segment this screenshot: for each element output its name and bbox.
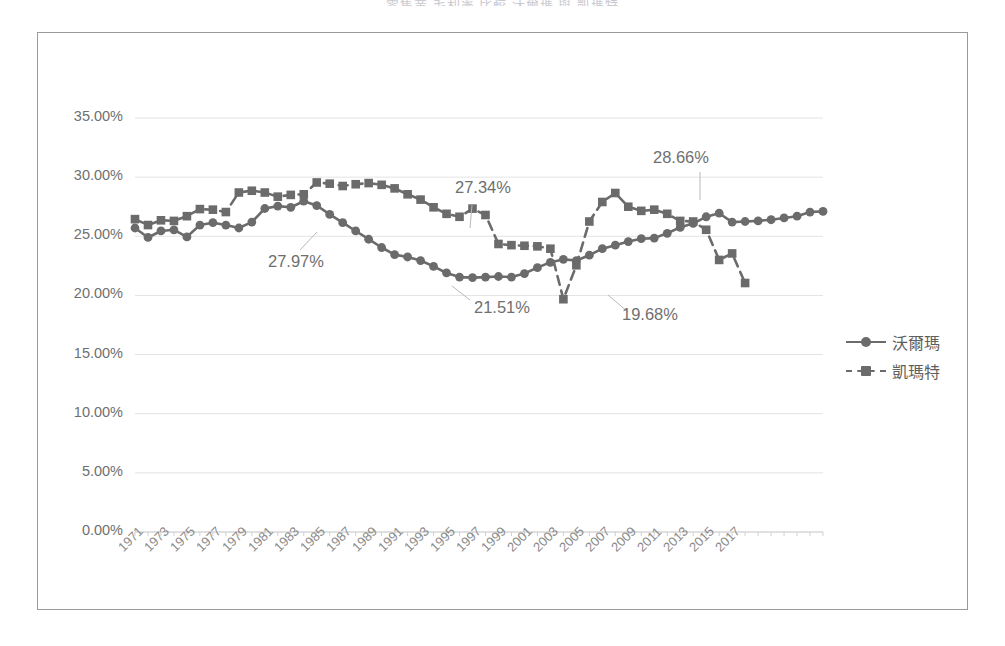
series-marker-2 xyxy=(663,210,672,219)
series-marker-2 xyxy=(429,203,438,212)
series-marker-2 xyxy=(273,192,282,201)
series-marker-1 xyxy=(286,203,295,212)
series-marker-2 xyxy=(741,279,750,288)
legend-item[interactable]: 沃爾瑪 xyxy=(846,327,966,356)
series-marker-2 xyxy=(494,240,503,249)
series-marker-1 xyxy=(507,273,516,282)
series-marker-1 xyxy=(208,218,217,227)
series-marker-2 xyxy=(546,244,555,253)
series-marker-2 xyxy=(248,186,257,195)
chart-legend: 沃爾瑪凱瑪特 xyxy=(846,327,966,385)
annotation-leader xyxy=(300,232,317,250)
data-label: 21.51% xyxy=(474,298,530,317)
series-marker-2 xyxy=(312,178,321,187)
series-marker-2 xyxy=(481,211,490,220)
legend-item-label: 凱瑪特 xyxy=(892,359,940,383)
series-marker-1 xyxy=(312,201,321,210)
series-marker-1 xyxy=(416,256,425,265)
series-marker-1 xyxy=(196,221,205,230)
data-label: 27.97% xyxy=(268,252,324,271)
series-marker-1 xyxy=(468,273,477,282)
series-marker-1 xyxy=(157,227,166,236)
series-marker-1 xyxy=(429,262,438,271)
series-marker-1 xyxy=(338,218,347,227)
y-axis-tick-label: 15.00% xyxy=(55,345,123,361)
y-axis-tick-label: 5.00% xyxy=(55,463,123,479)
series-marker-1 xyxy=(585,251,594,260)
legend-item-label: 沃爾瑪 xyxy=(892,330,940,354)
series-marker-2 xyxy=(261,188,270,197)
series-marker-1 xyxy=(611,241,620,250)
data-label: 27.34% xyxy=(455,178,511,197)
y-axis-tick-label: 25.00% xyxy=(55,226,123,242)
series-marker-1 xyxy=(364,235,373,244)
series-marker-2 xyxy=(131,215,140,224)
annotation-leader xyxy=(452,286,470,300)
series-marker-1 xyxy=(390,250,399,259)
series-marker-2 xyxy=(637,207,646,216)
series-marker-2 xyxy=(390,184,399,193)
series-marker-2 xyxy=(299,190,308,199)
series-marker-1 xyxy=(793,212,802,221)
series-marker-1 xyxy=(183,232,192,241)
series-marker-1 xyxy=(598,244,607,253)
series-marker-1 xyxy=(494,272,503,281)
series-marker-2 xyxy=(572,261,581,270)
legend-item[interactable]: 凱瑪特 xyxy=(846,356,966,385)
series-marker-2 xyxy=(585,217,594,226)
y-axis-tick-label: 20.00% xyxy=(55,285,123,301)
series-marker-2 xyxy=(442,210,451,219)
series-marker-1 xyxy=(637,234,646,243)
y-axis-tick-label: 0.00% xyxy=(55,522,123,538)
series-marker-1 xyxy=(624,237,633,246)
series-marker-1 xyxy=(455,273,464,282)
series-marker-2 xyxy=(235,188,244,197)
series-marker-1 xyxy=(520,269,529,278)
series-marker-2 xyxy=(676,217,685,226)
series-marker-1 xyxy=(533,263,542,272)
data-label: 19.68% xyxy=(622,305,678,324)
y-axis-tick-label: 30.00% xyxy=(55,167,123,183)
series-marker-1 xyxy=(481,273,490,282)
series-marker-2 xyxy=(286,191,295,200)
series-marker-1 xyxy=(144,233,153,242)
series-marker-2 xyxy=(702,225,711,234)
series-marker-2 xyxy=(689,217,698,226)
series-marker-2 xyxy=(598,198,607,207)
y-axis-tick-label: 35.00% xyxy=(55,108,123,124)
series-marker-2 xyxy=(520,241,529,250)
series-marker-1 xyxy=(819,207,828,216)
series-marker-1 xyxy=(351,227,360,236)
series-marker-2 xyxy=(416,195,425,204)
series-marker-1 xyxy=(754,217,763,226)
series-marker-1 xyxy=(728,218,737,227)
series-marker-2 xyxy=(351,180,360,189)
legend-square-icon xyxy=(846,364,886,378)
series-marker-1 xyxy=(650,234,659,243)
series-marker-2 xyxy=(715,256,724,265)
series-marker-1 xyxy=(715,209,724,218)
series-marker-2 xyxy=(325,179,334,188)
series-marker-2 xyxy=(183,212,192,221)
series-marker-1 xyxy=(806,208,815,217)
series-marker-1 xyxy=(780,214,789,223)
series-marker-2 xyxy=(222,208,231,217)
series-marker-1 xyxy=(131,224,140,233)
series-marker-2 xyxy=(650,205,659,214)
legend-circle-icon xyxy=(846,335,886,349)
series-marker-2 xyxy=(364,179,373,188)
series-marker-1 xyxy=(702,212,711,221)
series-marker-2 xyxy=(507,241,516,250)
series-marker-2 xyxy=(728,249,737,258)
series-marker-1 xyxy=(559,255,568,264)
series-marker-1 xyxy=(234,224,243,233)
series-marker-2 xyxy=(157,216,166,225)
series-marker-2 xyxy=(144,221,153,230)
series-marker-1 xyxy=(247,218,256,227)
series-marker-1 xyxy=(260,204,269,213)
series-marker-2 xyxy=(611,189,620,198)
series-marker-2 xyxy=(170,217,179,226)
series-marker-1 xyxy=(170,225,179,234)
series-marker-1 xyxy=(741,217,750,226)
series-marker-2 xyxy=(377,181,386,190)
